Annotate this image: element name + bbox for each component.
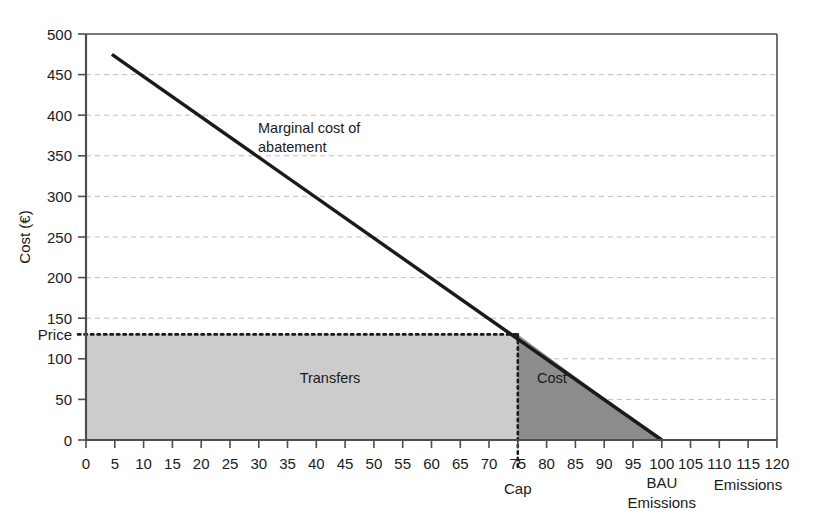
xtick-label-110: 110	[707, 455, 731, 472]
y-axis-tick-labels: 0 50 100 150 200 250 300 350 400 450 500	[47, 26, 72, 449]
ytick-label-400: 400	[47, 107, 72, 124]
ytick-label-200: 200	[47, 269, 72, 286]
xtick-label-80: 80	[538, 455, 555, 472]
xtick-label-55: 55	[394, 455, 411, 472]
marginal-cost-annotation-line1: Marginal cost of	[258, 120, 361, 136]
xtick-label-70: 70	[481, 455, 498, 472]
bau-label-line2: Emissions	[628, 494, 696, 511]
xtick-label-50: 50	[366, 455, 383, 472]
y-axis-ticks	[78, 34, 86, 440]
xtick-label-20: 20	[193, 455, 210, 472]
bau-label-line1: BAU	[646, 474, 677, 491]
xtick-label-5: 5	[111, 455, 119, 472]
x-axis-ticks	[86, 440, 777, 448]
xtick-label-120: 120	[764, 455, 789, 472]
xtick-label-35: 35	[279, 455, 296, 472]
xtick-label-75: 75	[509, 455, 526, 472]
region-transfers	[86, 334, 518, 440]
xtick-label-30: 30	[250, 455, 267, 472]
ytick-label-450: 450	[47, 66, 72, 83]
xtick-label-25: 25	[222, 455, 239, 472]
marginal-cost-annotation-line2: abatement	[258, 139, 327, 155]
ytick-label-250: 250	[47, 229, 72, 246]
xtick-label-105: 105	[678, 455, 703, 472]
x-axis-tick-labels: 0 5 10 15 20 25 30 35 40 45 50 55 60 65 …	[82, 455, 790, 472]
xtick-label-90: 90	[596, 455, 613, 472]
chart-figure: 0 50 100 150 200 250 300 350 400 450 500…	[0, 0, 819, 528]
xtick-label-65: 65	[452, 455, 469, 472]
marginal-abatement-cost-chart: 0 50 100 150 200 250 300 350 400 450 500…	[0, 0, 819, 528]
xtick-label-100: 100	[649, 455, 674, 472]
price-axis-label: Price	[38, 326, 72, 343]
ytick-label-500: 500	[47, 26, 72, 43]
xtick-label-85: 85	[567, 455, 584, 472]
region-label-transfers: Transfers	[300, 370, 361, 386]
xtick-label-115: 115	[736, 455, 760, 472]
xtick-label-10: 10	[135, 455, 152, 472]
xtick-label-15: 15	[164, 455, 181, 472]
ytick-label-0: 0	[64, 432, 72, 449]
y-axis-title: Cost (€)	[16, 210, 33, 263]
xtick-label-95: 95	[625, 455, 642, 472]
xtick-label-45: 45	[337, 455, 354, 472]
ytick-label-350: 350	[47, 147, 72, 164]
ytick-label-100: 100	[47, 350, 72, 367]
cap-axis-label: Cap	[504, 480, 532, 497]
ytick-label-50: 50	[55, 391, 72, 408]
x-axis-title: Emissions	[714, 476, 782, 493]
ytick-label-300: 300	[47, 188, 72, 205]
xtick-label-40: 40	[308, 455, 325, 472]
xtick-label-60: 60	[423, 455, 440, 472]
ytick-label-150: 150	[47, 310, 72, 327]
region-label-cost: Cost	[537, 370, 567, 386]
xtick-label-0: 0	[82, 455, 90, 472]
